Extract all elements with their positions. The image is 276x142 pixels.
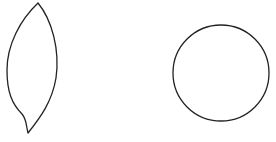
leaf-shape (7, 3, 57, 133)
drawing-canvas (0, 0, 276, 142)
circle-shape (173, 25, 269, 121)
